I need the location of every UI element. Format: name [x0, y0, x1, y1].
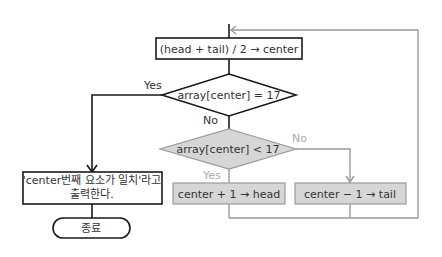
- output-line-2: 출력한다.: [23, 188, 162, 202]
- end-label: 종료: [81, 223, 101, 234]
- update-tail-label: center − 1 → tail: [304, 189, 396, 200]
- check-less-label: array[center] < 17: [176, 144, 279, 155]
- output-line-1: 'center번째 요소가 일치'라고: [23, 174, 162, 188]
- compute-center-label: (head + tail) / 2 → center: [160, 44, 299, 55]
- less-yes-label: Yes: [203, 170, 221, 181]
- less-no-label: No: [292, 133, 307, 144]
- output-label: 'center번째 요소가 일치'라고 출력한다.: [23, 174, 162, 202]
- update-head-label: center + 1 → head: [178, 189, 280, 200]
- check-equal-label: array[center] = 17: [177, 90, 280, 101]
- equal-no-label: No: [203, 115, 218, 126]
- equal-yes-label: Yes: [144, 80, 162, 91]
- flowchart-canvas: [0, 0, 442, 257]
